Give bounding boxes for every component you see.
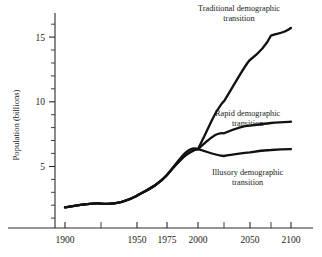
y-axis-minor-ticks bbox=[51, 24, 55, 218]
population-projection-chart: 1900 1950 1975 2000 2050 2100 5 10 15 Po… bbox=[0, 0, 322, 257]
y-tick-label-10: 10 bbox=[36, 97, 46, 107]
annotation-traditional-line2: transition bbox=[198, 14, 280, 24]
y-tick-label-15: 15 bbox=[36, 33, 46, 43]
x-tick-label-2050: 2050 bbox=[241, 235, 260, 245]
y-axis-major-ticks bbox=[49, 37, 55, 166]
annotation-rapid-line1: Rapid demographic bbox=[215, 109, 280, 119]
x-tick-label-2100: 2100 bbox=[282, 235, 301, 245]
annotation-illusory-line1: Illusory demographic bbox=[212, 168, 283, 178]
x-tick-label-1950: 1950 bbox=[128, 235, 147, 245]
annotation-rapid-line2: transition bbox=[215, 119, 280, 129]
x-tick-label-1975: 1975 bbox=[158, 235, 177, 245]
annotation-illusory-demographic-transition: Illusory demographic transition bbox=[212, 168, 283, 188]
x-tick-label-1900: 1900 bbox=[56, 235, 75, 245]
annotation-traditional-line1: Traditional demographic bbox=[198, 4, 280, 14]
y-tick-label-5: 5 bbox=[40, 162, 45, 172]
annotation-traditional-demographic-transition: Traditional demographic transition bbox=[198, 4, 280, 24]
annotation-rapid-demographic-transition: Rapid demographic transition bbox=[215, 109, 280, 129]
y-axis-tick-labels: 5 10 15 bbox=[36, 33, 46, 173]
y-axis-title: Population (billions) bbox=[11, 89, 21, 160]
x-axis-ticks bbox=[65, 222, 291, 228]
x-axis-tick-labels: 1900 1950 1975 2000 2050 2100 bbox=[56, 235, 301, 245]
series-rapid bbox=[65, 122, 291, 208]
annotation-illusory-line2: transition bbox=[212, 178, 283, 188]
x-tick-label-2000: 2000 bbox=[189, 235, 208, 245]
